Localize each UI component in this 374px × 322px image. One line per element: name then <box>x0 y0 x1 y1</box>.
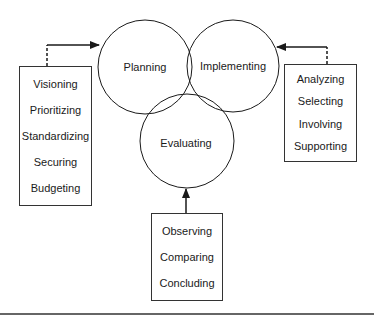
activity-budgeting: Budgeting <box>31 182 81 195</box>
planning-circle: Planning <box>98 20 192 114</box>
activity-supporting: Supporting <box>294 140 347 153</box>
evaluating-activities-box: Observing Comparing Concluding <box>151 213 223 301</box>
planning-connector-arrow <box>47 45 99 66</box>
implementing-activities-box: Analyzing Selecting Involving Supporting <box>284 64 357 162</box>
evaluating-label: Evaluating <box>160 137 211 149</box>
activity-selecting: Selecting <box>298 95 343 108</box>
activity-comparing: Comparing <box>160 251 214 264</box>
activity-involving: Involving <box>299 118 342 131</box>
planning-activities-box: Visioning Prioritizing Standardizing Sec… <box>19 66 92 206</box>
activity-visioning: Visioning <box>33 78 77 91</box>
activity-prioritizing: Prioritizing <box>30 104 81 117</box>
evaluating-circle: Evaluating <box>140 94 234 188</box>
implementing-connector-arrow <box>277 47 327 64</box>
activity-securing: Securing <box>34 156 77 169</box>
activity-observing: Observing <box>162 225 212 238</box>
activity-analyzing: Analyzing <box>297 73 345 86</box>
activity-concluding: Concluding <box>159 277 214 290</box>
activity-standardizing: Standardizing <box>22 130 89 143</box>
implementing-circle: Implementing <box>187 20 279 112</box>
implementing-label: Implementing <box>200 60 266 72</box>
planning-label: Planning <box>124 61 167 73</box>
